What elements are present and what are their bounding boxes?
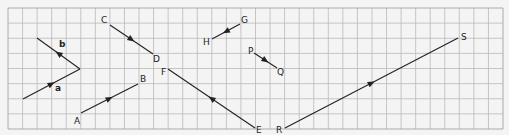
point-label-C: C	[101, 15, 107, 25]
vector-label: b	[59, 39, 66, 49]
arrowhead-icon	[261, 56, 269, 62]
point-label-G: G	[241, 15, 248, 25]
point-label-F: F	[161, 67, 166, 77]
diagram-svg: ab ABCDEFGHPQRS	[0, 0, 509, 135]
point-label-S: S	[461, 32, 467, 42]
vector-RS	[285, 38, 458, 128]
arrowhead-icon	[56, 51, 63, 58]
vector-grid-diagram: ab ABCDEFGHPQRS	[0, 0, 509, 135]
point-label-A: A	[74, 116, 81, 126]
point-label-R: R	[276, 125, 282, 135]
point-label-E: E	[256, 125, 262, 135]
point-label-D: D	[153, 54, 160, 64]
point-labels: ABCDEFGHPQRS	[74, 15, 467, 135]
point-label-P: P	[248, 46, 254, 56]
vector-PQ	[254, 53, 277, 68]
vector-CD	[110, 25, 153, 54]
grid	[8, 8, 503, 129]
point-label-H: H	[203, 37, 210, 47]
point-label-B: B	[140, 74, 146, 84]
vectors: ab	[23, 24, 458, 128]
vector-label: a	[55, 83, 61, 93]
arrowhead-icon	[209, 97, 216, 103]
point-label-Q: Q	[277, 67, 284, 77]
